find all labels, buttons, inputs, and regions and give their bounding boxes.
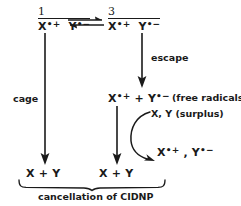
product-right-y: Y (125, 167, 133, 180)
product-left-y: Y (52, 167, 60, 180)
product-right-separator: + (112, 167, 121, 180)
triplet-pair-formula: X•+ Y•− (108, 18, 160, 32)
triplet-y-symbol: Y (138, 20, 146, 33)
product-left-x: X (26, 167, 35, 180)
product-left: X + Y (26, 168, 60, 179)
free-radical-y-charge: − (162, 91, 170, 101)
product-right-x: X (99, 167, 108, 180)
equilibrium-arrow (66, 15, 106, 31)
regenerated-x-charge: + (172, 145, 180, 155)
cancellation-caption: cancellation of CIDNP (38, 192, 153, 202)
triplet-radical-pair: 3 X•+ Y•− (108, 6, 160, 32)
cancellation-brace (18, 180, 166, 191)
singlet-x-charge: + (53, 19, 61, 29)
triplet-x-symbol: X (108, 20, 117, 33)
product-right: X + Y (99, 168, 133, 179)
singlet-x-symbol: X (38, 20, 47, 33)
triplet-x-charge: + (123, 19, 131, 29)
product-left-separator: + (39, 167, 48, 180)
regenerated-y-symbol: Y (192, 146, 200, 159)
free-radicals-separator: + (134, 92, 143, 105)
triplet-y-charge: − (153, 19, 161, 29)
regenerated-separator: , (183, 146, 187, 159)
regenerated-x-symbol: X (157, 146, 166, 159)
free-radical-x-symbol: X (108, 92, 117, 105)
free-radicals-species: X•+ + Y•− (108, 92, 170, 104)
free-radical-y-symbol: Y (148, 92, 156, 105)
surplus-reagents-label: X, Y (surplus) (151, 109, 224, 119)
escape-label: escape (151, 53, 188, 63)
cage-label: cage (13, 94, 38, 104)
escape-arrow (135, 33, 149, 89)
triplet-multiplicity-label: 3 (108, 6, 160, 18)
cage-recombination-arrow (38, 33, 52, 166)
regenerated-radical-ions: X•+ , Y•− (157, 146, 214, 158)
free-radical-x-charge: + (123, 91, 131, 101)
regenerated-y-charge: − (206, 145, 214, 155)
cidnp-scheme-diagram: 1 X•+ Y•− 3 X•+ Y•− cage (0, 0, 241, 206)
free-radicals-annotation: (free radicals) (172, 93, 241, 103)
